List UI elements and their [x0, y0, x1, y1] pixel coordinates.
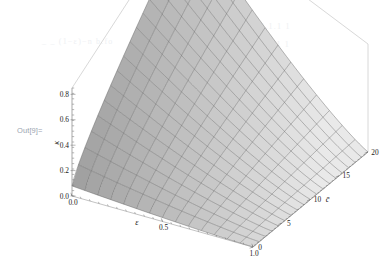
plot-output-canvas: _ _ (1−ε)−n b.fo 1 1; 1.1.1 1 1 .1 . 1 1… [0, 0, 380, 275]
axis-label-text: 0 [258, 243, 262, 252]
surface-shaded-cells [72, 0, 368, 247]
axis-label-text: 0.5 [159, 223, 169, 232]
axis-label-text: 5 [287, 219, 291, 228]
axis-label-text: 20 [371, 148, 379, 157]
axis-label-text: 0.2 [60, 166, 70, 175]
axis-label-text: 0.8 [60, 90, 70, 99]
axis-label-text: 0.6 [60, 115, 70, 124]
axis-label-text: 0.4 [60, 141, 70, 150]
axis-label-text: 15 [343, 171, 351, 180]
surface-plot-3d: 0.00.20.40.60.8κ0.00.51.0ε05101520c̄ [0, 0, 380, 275]
axis-label-text: 0.0 [68, 198, 78, 207]
axis-label-text: 10 [314, 195, 322, 204]
axis-label-text: ε [135, 218, 139, 227]
y-axis-title: c̄ [326, 195, 330, 204]
